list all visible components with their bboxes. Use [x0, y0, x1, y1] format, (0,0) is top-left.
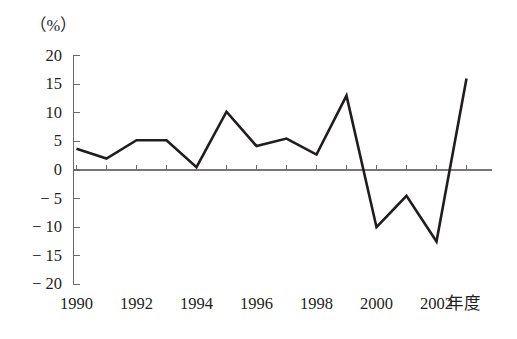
data-series-line	[77, 78, 467, 241]
plot-area	[0, 0, 517, 339]
x-axis-ticks	[77, 165, 467, 170]
line-chart: （%） 20151050− 5− 10− 15− 20 199019921994…	[0, 0, 517, 339]
